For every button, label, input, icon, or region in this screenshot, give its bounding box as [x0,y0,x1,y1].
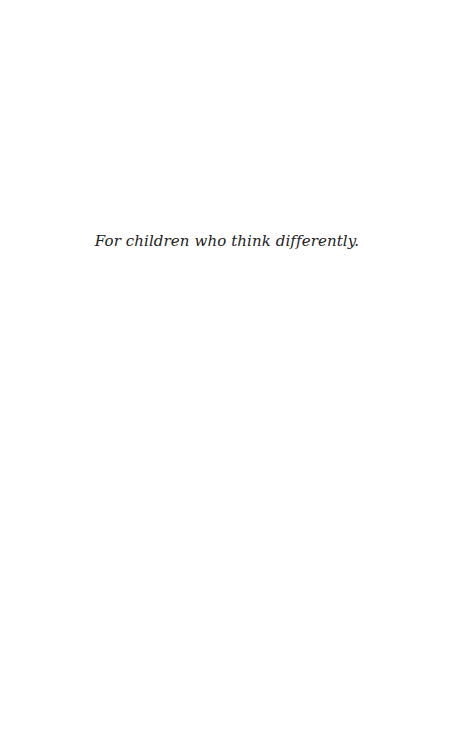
book-page: For children who think differently. [0,0,454,752]
dedication-text: For children who think differently. [0,232,454,250]
